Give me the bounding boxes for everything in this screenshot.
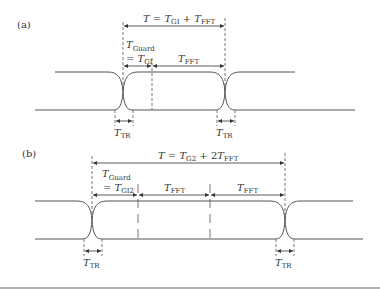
panel-b-boundaries: [84, 153, 294, 256]
panel-a-tr-right-label: TTR: [216, 127, 233, 140]
panel-a-fft-label: TFFT: [178, 53, 199, 66]
panel-a-label: (a): [17, 19, 31, 30]
panel-b-tr-right-label: TTR: [275, 257, 292, 270]
panel-b-symbol-waveform: [35, 201, 363, 239]
panel-a-guard-eq-label: = TGI: [126, 53, 153, 66]
panel-b: (b) T = TG2 + 2TFFT: [22, 148, 363, 270]
panel-b-fft1-label: TFFT: [164, 182, 185, 195]
panel-b-total-period-label: T = TG2 + 2TFFT: [158, 150, 239, 163]
panel-b-tr-left-label: TTR: [83, 257, 100, 270]
panel-a-tr-left-label: TTR: [114, 127, 131, 140]
ofdm-guard-interval-diagram: (a) T = TGI + TFFT: [0, 0, 380, 289]
panel-a-guard-label: TGuard: [126, 39, 155, 53]
panel-b-fft2-label: TFFT: [237, 182, 258, 195]
panel-a: (a) T = TGI + TFFT: [17, 13, 355, 140]
panel-a-symbol-waveform: [35, 72, 355, 110]
panel-b-guard-eq-label: = TGI2: [103, 182, 134, 195]
panel-a-total-period-label: T = TGI + TFFT: [143, 13, 216, 26]
panel-b-label: (b): [22, 148, 36, 159]
panel-b-guard-label: TGuard: [102, 168, 131, 182]
